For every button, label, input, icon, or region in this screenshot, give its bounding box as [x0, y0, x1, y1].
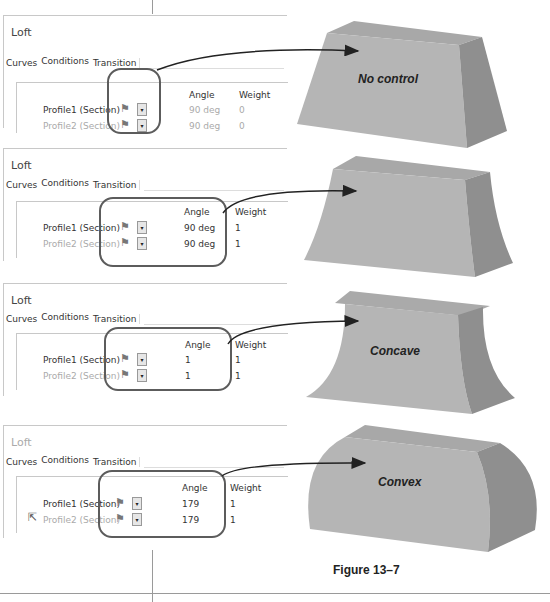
figure-caption: Figure 13–7 — [333, 563, 400, 577]
figure-graphics — [0, 0, 550, 602]
connector-arrow-3 — [228, 321, 358, 344]
loft-result-angle-90 — [304, 156, 513, 277]
shape-label-concave: Concave — [370, 344, 420, 358]
loft-result-convex — [308, 425, 537, 552]
shape-label-convex: Convex — [378, 475, 421, 489]
shape-label-no-control: No control — [358, 72, 418, 86]
